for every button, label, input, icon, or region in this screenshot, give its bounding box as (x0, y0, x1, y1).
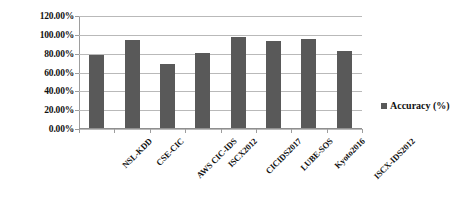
y-tick-label: 60.00% (2, 68, 74, 78)
y-tick-label: 40.00% (2, 86, 74, 96)
gridline (79, 91, 362, 92)
y-tick-label: 120.00% (2, 11, 74, 21)
x-tick-mark (114, 129, 115, 133)
bar[interactable] (125, 40, 140, 128)
bar[interactable] (266, 41, 281, 128)
x-tick-mark (256, 129, 257, 133)
bar[interactable] (160, 64, 175, 129)
gridline (79, 35, 362, 36)
square-marker-icon (381, 103, 387, 109)
x-tick-mark (150, 129, 151, 133)
plot-area (79, 16, 362, 129)
gridline (79, 54, 362, 55)
x-tick-label: ISCX-IDS2012 (372, 136, 417, 181)
bar[interactable] (337, 51, 352, 128)
x-tick-mark (327, 129, 328, 133)
x-tick-mark (362, 129, 363, 133)
y-tick-label: 0.00% (2, 124, 74, 134)
chart-legend: Accuracy (%) (381, 100, 450, 111)
bar[interactable] (89, 55, 104, 128)
y-tick-mark (75, 110, 79, 111)
y-tick-mark (75, 16, 79, 17)
bar[interactable] (195, 53, 210, 128)
x-tick-label: CSE-CIC (154, 136, 186, 168)
x-tick-mark (185, 129, 186, 133)
accuracy-bar-chart: 0.00%20.00%40.00%60.00%80.00%100.00%120.… (0, 0, 465, 217)
gridline (79, 110, 362, 111)
y-tick-label: 100.00% (2, 30, 74, 40)
y-tick-label: 80.00% (2, 49, 74, 59)
x-tick-label: LUBE-SOS (298, 136, 335, 173)
y-tick-mark (75, 91, 79, 92)
bar[interactable] (231, 37, 246, 128)
x-tick-label: NSL-KDD (120, 136, 154, 170)
y-tick-label: 20.00% (2, 105, 74, 115)
x-tick-label: CICIDS2017 (264, 136, 304, 176)
y-tick-mark (75, 35, 79, 36)
gridline (79, 73, 362, 74)
x-tick-mark (79, 129, 80, 133)
y-axis: 0.00%20.00%40.00%60.00%80.00%100.00%120.… (0, 0, 74, 217)
y-tick-mark (75, 54, 79, 55)
bar[interactable] (301, 39, 316, 128)
gridline (79, 16, 362, 17)
x-tick-mark (291, 129, 292, 133)
x-tick-label: Kyoto2016 (332, 136, 366, 170)
y-tick-mark (75, 73, 79, 74)
x-tick-mark (221, 129, 222, 133)
legend-label: Accuracy (%) (390, 100, 450, 111)
